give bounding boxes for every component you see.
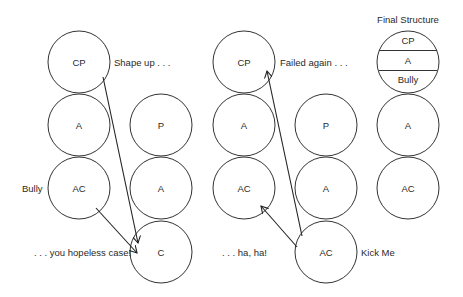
middle-person1: CP A AC	[213, 31, 275, 219]
mid-p2-p-label: P	[323, 120, 329, 131]
mid-p2-ac-label: AC	[319, 247, 332, 258]
left-p2-a-label: A	[158, 183, 165, 194]
left-group: CP A AC Shape up . . . Bully P A C . . .…	[22, 31, 192, 283]
middle-person2: P A AC	[295, 94, 357, 283]
left-person1: CP A AC	[48, 31, 110, 219]
failed-again-text: Failed again . . .	[280, 57, 348, 68]
final-ac-label: AC	[401, 183, 414, 194]
left-p1-cp-label: CP	[72, 57, 85, 68]
final-bully-label: Bully	[398, 74, 419, 85]
middle-group: CP A AC Failed again . . . P A AC Kick M…	[213, 31, 395, 283]
hopeless-case-text: . . . you hopeless case!	[34, 247, 131, 258]
left-p1-a-label: A	[76, 120, 83, 131]
ego-state-diagram: CP A AC Shape up . . . Bully P A C . . .…	[0, 0, 463, 297]
mid-p1-ac-label: AC	[237, 183, 250, 194]
mid-p1-cp-label: CP	[237, 57, 250, 68]
left-p2-c-label: C	[158, 247, 165, 258]
final-structure-title: Final Structure	[377, 14, 439, 25]
mid-p1-a-label: A	[241, 120, 248, 131]
arrow-cp-to-c	[103, 77, 138, 243]
ha-ha-text: . . . ha, ha!	[222, 247, 267, 258]
final-a-section-label: A	[405, 55, 412, 66]
arrow-ac-to-ac	[261, 206, 297, 247]
kick-me-text: Kick Me	[361, 247, 395, 258]
left-p1-ac-label: AC	[72, 183, 85, 194]
shape-up-text: Shape up . . .	[114, 57, 171, 68]
final-cp-label: CP	[401, 35, 414, 46]
final-a-label: A	[405, 120, 412, 131]
left-person2: P A C	[130, 94, 192, 283]
final-structure: Final Structure CP A Bully A AC	[377, 14, 439, 219]
arrow-ac-to-cp	[267, 71, 302, 236]
left-p2-p-label: P	[158, 120, 164, 131]
mid-p2-a-label: A	[323, 183, 330, 194]
bully-text: Bully	[22, 183, 43, 194]
